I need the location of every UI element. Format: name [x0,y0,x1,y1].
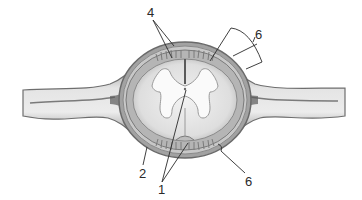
diagram-artwork [0,0,362,200]
spinal-cord [133,59,237,141]
label-6-bottom: 6 [245,175,252,188]
label-4: 4 [147,6,154,19]
spinal-cord-diagram: 4 6 2 1 6 [0,0,362,200]
label-1: 1 [158,183,165,196]
label-6-top: 6 [255,28,262,41]
label-2: 2 [139,167,146,180]
central-canal [184,88,186,90]
